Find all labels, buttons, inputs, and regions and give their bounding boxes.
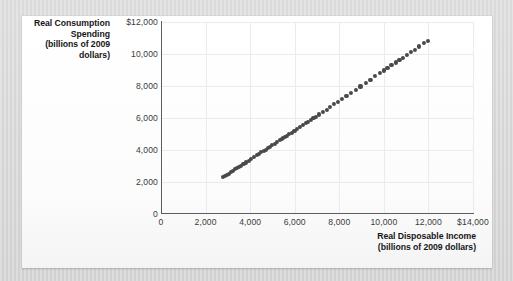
scatter-points xyxy=(161,22,473,214)
scatter-point xyxy=(368,78,372,82)
figure-card: Real Consumption Spending (billions of 2… xyxy=(22,16,492,268)
y-tick-label: 10,000 xyxy=(131,49,158,59)
scatter-point xyxy=(336,100,340,104)
x-tick-label: 4,000 xyxy=(239,217,261,227)
y-tick-label: 0 xyxy=(153,209,158,219)
scatter-point xyxy=(413,47,417,51)
y-axis-title-line-3: (billions of 2009 xyxy=(24,39,110,50)
y-axis-title-line-4: dollars) xyxy=(24,50,110,61)
scatter-point xyxy=(364,81,368,85)
scatter-point xyxy=(389,63,393,67)
scatter-point xyxy=(358,84,362,88)
y-axis-tick-labels: 02,0004,0006,0008,00010,000$12,000 xyxy=(110,22,158,214)
x-tick-label: $14,000 xyxy=(457,217,489,227)
plot-area xyxy=(161,22,473,214)
y-tick-label: 6,000 xyxy=(136,113,158,123)
scatter-point xyxy=(373,74,377,78)
scatter-point xyxy=(349,91,353,95)
x-axis-title-line-2: (billions of 2009 dollars) xyxy=(377,242,476,253)
gridline-vertical xyxy=(473,22,474,214)
x-tick-label: 8,000 xyxy=(328,217,350,227)
x-axis-tick-labels: 02,0004,0006,0008,00010,00012,000$14,000 xyxy=(161,217,473,231)
y-axis-title-line-2: Spending xyxy=(24,29,110,40)
scatter-point xyxy=(409,50,413,54)
scatter-point xyxy=(426,39,430,43)
y-tick-label: $12,000 xyxy=(126,17,158,27)
x-tick-label: 6,000 xyxy=(284,217,306,227)
y-axis-title: Real Consumption Spending (billions of 2… xyxy=(24,18,110,60)
x-tick-label: 2,000 xyxy=(195,217,217,227)
y-tick-label: 2,000 xyxy=(136,177,158,187)
x-axis-title-line-1: Real Disposable Income xyxy=(377,231,476,242)
scatter-point xyxy=(328,105,332,109)
x-tick-label: 10,000 xyxy=(370,217,397,227)
scatter-point xyxy=(340,97,344,101)
scatter-point xyxy=(422,41,426,45)
scatter-point xyxy=(417,44,421,48)
y-tick-label: 4,000 xyxy=(136,145,158,155)
scatter-point xyxy=(405,53,409,57)
x-tick-label: 0 xyxy=(159,217,164,227)
scatter-point xyxy=(354,88,358,92)
x-tick-label: 12,000 xyxy=(415,217,442,227)
scatter-point xyxy=(385,66,389,70)
scatter-point xyxy=(344,94,348,98)
y-tick-label: 8,000 xyxy=(136,81,158,91)
y-axis-title-line-1: Real Consumption xyxy=(24,18,110,29)
x-axis-title: Real Disposable Income (billions of 2009… xyxy=(377,231,476,252)
